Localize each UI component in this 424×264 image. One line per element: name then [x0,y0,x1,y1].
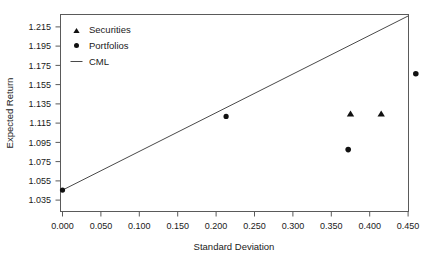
y-tick-label: 1.135 [28,99,51,109]
y-axis-ticks [56,27,61,200]
y-tick-label: 1.075 [28,157,51,167]
security-marker [347,111,354,117]
legend-label-securities: Securities [89,24,131,35]
security-marker [378,111,385,117]
x-axis-tick-labels: 0.000 0.050 0.100 0.150 0.200 0.250 0.30… [51,221,419,231]
portfolio-marker [60,188,65,193]
y-tick-label: 1.195 [28,41,51,51]
legend-circle-icon [74,43,79,48]
chart-screenshot: 0.000 0.050 0.100 0.150 0.200 0.250 0.30… [0,0,424,264]
legend-triangle-icon [73,28,79,33]
x-axis-ticks [63,212,409,217]
x-axis-title: Standard Deviation [194,241,275,252]
y-tick-label: 1.155 [28,80,51,90]
x-tick-label: 0.100 [128,221,151,231]
chart-legend: Securities Portfolios CML [71,24,131,67]
y-tick-label: 1.095 [28,138,51,148]
x-tick-label: 0.350 [320,221,343,231]
portfolio-marker [413,71,419,77]
y-tick-label: 1.035 [28,195,51,205]
x-tick-label: 0.400 [358,221,381,231]
data-markers [60,71,419,193]
y-tick-label: 1.115 [29,118,51,128]
y-tick-label: 1.175 [28,61,51,71]
x-tick-label: 0.150 [166,221,189,231]
capital-market-line-chart: 0.000 0.050 0.100 0.150 0.200 0.250 0.30… [0,0,424,264]
x-tick-label: 0.300 [282,221,305,231]
x-tick-label: 0.050 [90,221,113,231]
y-tick-label: 1.055 [28,176,51,186]
x-tick-label: 0.450 [397,221,420,231]
legend-label-portfolios: Portfolios [89,40,129,51]
y-axis-tick-labels: 1.035 1.055 1.075 1.095 1.115 1.135 1.15… [28,22,51,205]
x-tick-label: 0.000 [51,221,74,231]
x-tick-label: 0.250 [243,221,266,231]
portfolio-marker [224,114,229,119]
portfolio-marker [345,147,351,153]
y-tick-label: 1.215 [28,22,51,32]
y-axis-title: Expected Return [4,78,15,149]
x-tick-label: 0.200 [205,221,228,231]
legend-label-cml: CML [89,56,109,67]
